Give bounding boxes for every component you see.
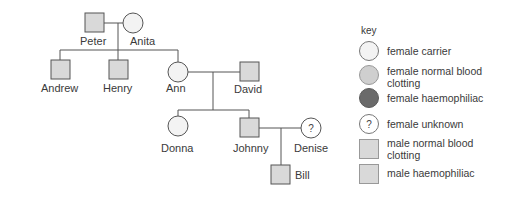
peter-symbol — [85, 13, 104, 32]
label-peter: Peter — [80, 35, 106, 47]
key-label: male normal blood clotting — [387, 137, 507, 161]
key-item-male-normal: male normal blood clotting — [355, 138, 505, 160]
key-label: female haemophiliac — [387, 92, 483, 104]
key-item-female-normal: female normal blood clotting — [355, 64, 505, 86]
johnny-symbol — [240, 118, 259, 137]
henry-symbol — [109, 60, 128, 79]
andrew-symbol — [51, 60, 70, 79]
key-item-male-haemophiliac: male haemophiliac — [355, 163, 505, 185]
female-haemophiliac-icon — [358, 88, 380, 110]
key-label: female carrier — [387, 45, 451, 57]
svg-text:?: ? — [366, 119, 372, 130]
female-normal-icon — [358, 64, 380, 86]
denise-unknown-mark: ? — [308, 123, 314, 134]
label-andrew: Andrew — [41, 82, 78, 94]
label-henry: Henry — [103, 82, 132, 94]
male-normal-icon — [358, 138, 380, 160]
key-item-female-unknown: ? female unknown — [355, 114, 505, 136]
label-denise: Denise — [294, 142, 328, 154]
label-anita: Anita — [130, 35, 155, 47]
david-symbol — [240, 62, 259, 81]
bill-symbol — [271, 165, 290, 184]
key-title: key — [361, 25, 377, 36]
key-label: male haemophiliac — [387, 167, 475, 179]
label-johnny: Johnny — [233, 142, 268, 154]
female-carrier-icon — [358, 41, 380, 63]
donna-symbol — [168, 116, 188, 136]
label-donna: Donna — [161, 142, 193, 154]
female-unknown-icon: ? — [358, 114, 380, 136]
male-haemophiliac-icon — [358, 163, 380, 185]
key-label: female normal blood clotting — [387, 65, 507, 89]
key-item-female-haemophiliac: female haemophiliac — [355, 88, 505, 110]
anita-symbol — [123, 13, 143, 33]
label-david: David — [234, 83, 262, 95]
label-ann: Ann — [166, 82, 186, 94]
key-item-female-carrier: female carrier — [355, 41, 505, 63]
key-label: female unknown — [387, 118, 463, 130]
ann-symbol — [168, 62, 188, 82]
label-bill: Bill — [295, 169, 310, 181]
